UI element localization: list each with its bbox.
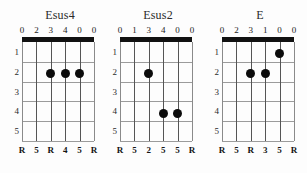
finger-number: 0 — [277, 24, 282, 37]
interval-label: 5 — [161, 143, 166, 157]
fret-number: 5 — [15, 126, 20, 136]
fret-line — [120, 141, 192, 142]
interval-label-row: R5255R — [120, 143, 192, 157]
string-line — [251, 42, 252, 141]
fret-number-column: 12345 — [106, 42, 118, 141]
interval-label-row: R5R35R — [222, 143, 294, 157]
finger-dot — [261, 69, 270, 78]
fret-line — [22, 62, 94, 63]
chord-sheet: Esus4 023400 12345 R5R45R Esus2 013400 1… — [0, 0, 307, 173]
finger-dot — [61, 69, 70, 78]
fret-number: 3 — [15, 87, 20, 97]
fret-line — [22, 101, 94, 102]
fret-number: 1 — [15, 47, 20, 57]
interval-label: 5 — [175, 143, 180, 157]
string-line — [222, 42, 223, 141]
fret-line — [120, 62, 192, 63]
chord-diagram-e: E 023100 12345 R5R35R — [208, 8, 304, 157]
fret-number: 2 — [215, 67, 220, 77]
string-line — [94, 42, 95, 141]
interval-label: 5 — [277, 143, 282, 157]
finger-number-row: 023400 — [22, 24, 94, 37]
fret-number: 1 — [215, 47, 220, 57]
finger-dot — [75, 69, 84, 78]
fret-grid — [120, 42, 192, 141]
fret-number: 3 — [215, 87, 220, 97]
chord-diagram-esus2: Esus2 013400 12345 R5255R — [106, 8, 202, 157]
fret-line — [120, 121, 192, 122]
finger-dot — [159, 109, 168, 118]
fret-number: 4 — [113, 106, 118, 116]
string-line — [149, 42, 150, 141]
finger-number: 1 — [263, 24, 268, 37]
string-line — [265, 42, 266, 141]
finger-number: 4 — [63, 24, 68, 37]
fret-grid — [22, 42, 94, 141]
fret-number: 2 — [113, 67, 118, 77]
interval-label: R — [19, 143, 26, 157]
finger-number: 0 — [118, 24, 123, 37]
fret-line — [222, 101, 294, 102]
fretboard: 12345 — [120, 37, 192, 141]
interval-label: 3 — [263, 143, 268, 157]
fret-line — [222, 62, 294, 63]
interval-label: 5 — [234, 143, 239, 157]
finger-dot — [46, 69, 55, 78]
fret-line — [222, 141, 294, 142]
string-line — [120, 42, 121, 141]
finger-number: 0 — [190, 24, 195, 37]
finger-number: 0 — [20, 24, 25, 37]
string-line — [80, 42, 81, 141]
finger-number: 2 — [34, 24, 39, 37]
fret-number-column: 12345 — [208, 42, 220, 141]
fret-line — [22, 82, 94, 83]
string-line — [192, 42, 193, 141]
string-line — [236, 42, 237, 141]
interval-label: R — [291, 143, 298, 157]
chord-diagram-esus4: Esus4 023400 12345 R5R45R — [8, 8, 104, 157]
interval-label: 5 — [34, 143, 39, 157]
interval-label: R — [248, 143, 255, 157]
string-line — [163, 42, 164, 141]
fret-line — [22, 121, 94, 122]
fret-line — [120, 101, 192, 102]
finger-number: 3 — [49, 24, 54, 37]
finger-number-row: 023100 — [222, 24, 294, 37]
finger-number: 2 — [234, 24, 239, 37]
fretboard: 12345 — [222, 37, 294, 141]
fret-line — [222, 82, 294, 83]
fret-grid — [222, 42, 294, 141]
finger-number: 0 — [175, 24, 180, 37]
chord-diagram-row: Esus4 023400 12345 R5R45R Esus2 013400 1… — [0, 0, 307, 157]
chord-title: Esus4 — [8, 8, 104, 22]
interval-label: 5 — [77, 143, 82, 157]
string-line — [294, 42, 295, 141]
finger-number: 3 — [147, 24, 152, 37]
finger-number: 0 — [77, 24, 82, 37]
finger-number: 0 — [292, 24, 297, 37]
fret-line — [222, 121, 294, 122]
finger-number: 0 — [220, 24, 225, 37]
fret-line — [120, 82, 192, 83]
string-line — [36, 42, 37, 141]
finger-dot — [275, 49, 284, 58]
string-line — [22, 42, 23, 141]
string-line — [51, 42, 52, 141]
chord-title: E — [208, 8, 304, 22]
fret-number: 1 — [113, 47, 118, 57]
fret-number: 2 — [15, 67, 20, 77]
finger-dot — [246, 69, 255, 78]
finger-dot — [173, 109, 182, 118]
interval-label: 4 — [63, 143, 68, 157]
interval-label: 2 — [147, 143, 152, 157]
string-line — [178, 42, 179, 141]
fretboard: 12345 — [22, 37, 94, 141]
interval-label: 5 — [132, 143, 137, 157]
fret-line — [22, 141, 94, 142]
interval-label-row: R5R45R — [22, 143, 94, 157]
interval-label: R — [91, 143, 98, 157]
fret-number: 3 — [113, 87, 118, 97]
finger-number: 0 — [92, 24, 97, 37]
finger-number: 3 — [249, 24, 254, 37]
fret-number-column: 12345 — [8, 42, 20, 141]
